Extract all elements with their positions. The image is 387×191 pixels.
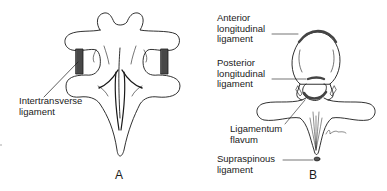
callout-line: Anterior: [217, 13, 265, 24]
callout-line: ligament: [19, 107, 82, 118]
artist-signature: [326, 130, 346, 134]
callout-line: ligament: [217, 79, 265, 90]
callout-posterior-longitudinal-ligament: Posterior longitudinal ligament: [217, 58, 265, 90]
callout-line: Posterior: [217, 58, 265, 69]
leader-intertransverse: [44, 62, 78, 97]
intertransverse-ligament-left: [76, 49, 83, 74]
callout-line: Intertransverse: [19, 96, 82, 107]
callout-anterior-longitudinal-ligament: Anterior longitudinal ligament: [217, 13, 265, 45]
callout-ligamentum-flavum: Ligamentum flavum: [230, 124, 282, 145]
anterior-longitudinal-ligament: [299, 31, 336, 42]
intertransverse-ligament-right: [161, 49, 168, 74]
callout-line: ligament: [217, 165, 275, 176]
panel-label-b: B: [309, 168, 317, 182]
panel-label-a: A: [115, 168, 123, 182]
posterior-longitudinal-ligament: [308, 78, 324, 80]
ligamentum-flavum: [304, 92, 326, 99]
callout-line: Supraspinous: [217, 154, 275, 165]
callout-supraspinous-ligament: Supraspinous ligament: [217, 154, 275, 175]
callout-line: ligament: [217, 34, 265, 45]
callout-line: flavum: [230, 135, 282, 146]
callout-line: Ligamentum: [230, 124, 282, 135]
supraspinous-ligament: [314, 157, 320, 161]
callout-intertransverse-ligament: Intertransverse ligament: [19, 96, 82, 117]
vertebra-posterior-view-a: [65, 13, 180, 156]
vertebral-ligaments-diagram: Intertransverse ligament A Anterior long…: [0, 0, 387, 191]
